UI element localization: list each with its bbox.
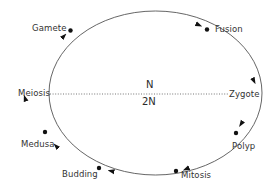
- label-fusion: Fusion: [215, 25, 243, 34]
- arrow-icon: [250, 73, 254, 81]
- label-budding: Budding: [62, 170, 98, 179]
- label-haploid: N: [146, 80, 153, 90]
- dot-polyp: [234, 131, 238, 135]
- label-polyp: Polyp: [232, 142, 255, 151]
- label-medusa: Medusa: [21, 140, 55, 149]
- stage-dots: [43, 27, 238, 173]
- arrow-icon: [58, 36, 64, 42]
- dot-fusion: [205, 27, 209, 31]
- arrow-icon: [186, 166, 193, 169]
- arrowheads: [25, 22, 254, 173]
- life-cycle-diagram: Gamete Fusion Zygote Polyp Mitosis Buddi…: [0, 0, 272, 188]
- arrow-icon: [241, 118, 245, 124]
- label-gamete: Gamete: [32, 24, 66, 33]
- label-diploid: 2N: [142, 97, 156, 107]
- arrow-icon: [192, 22, 199, 25]
- label-mitosis: Mitosis: [181, 171, 211, 180]
- label-meiosis: Meiosis: [18, 89, 50, 98]
- arrow-icon: [56, 146, 62, 152]
- dot-gamete: [68, 28, 72, 32]
- dot-mitosis: [174, 169, 178, 173]
- label-zygote: Zygote: [229, 90, 260, 99]
- arrow-icon: [25, 98, 27, 104]
- dot-medusa: [43, 130, 47, 134]
- arrow-icon: [111, 171, 120, 173]
